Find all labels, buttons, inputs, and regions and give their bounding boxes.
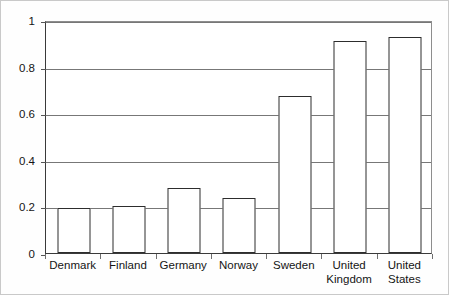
- bar: [57, 208, 90, 253]
- y-axis-tick-label: 0.8: [19, 62, 35, 74]
- x-axis-category-label: Norway: [211, 259, 266, 273]
- bar: [112, 206, 145, 253]
- y-axis-tick-label: 0.2: [19, 201, 35, 213]
- bar: [168, 188, 201, 253]
- x-axis-tick-mark: [432, 254, 433, 259]
- x-axis-category-label: Denmark: [45, 259, 100, 273]
- y-axis-tick-label: 0.4: [19, 155, 35, 167]
- bar: [389, 37, 422, 253]
- bar-slot: [101, 22, 156, 253]
- bar-series: [46, 22, 431, 253]
- x-axis-category-label: United States: [377, 259, 432, 286]
- plot-area: [45, 21, 432, 254]
- bar-slot: [46, 22, 101, 253]
- bar-slot: [212, 22, 267, 253]
- bar: [223, 198, 256, 253]
- x-axis-category-label: Germany: [156, 259, 211, 273]
- x-axis-category-label: Sweden: [266, 259, 321, 273]
- chart-figure: 00.20.40.60.81 DenmarkFinlandGermanyNorw…: [0, 0, 449, 295]
- bar: [278, 96, 311, 253]
- bar-slot: [157, 22, 212, 253]
- y-axis-tick-labels: 00.20.40.60.81: [1, 1, 41, 295]
- bar-slot: [322, 22, 377, 253]
- y-axis-tick-label: 0: [29, 248, 35, 260]
- bar-slot: [267, 22, 322, 253]
- x-axis-category-labels: DenmarkFinlandGermanyNorwaySwedenUnited …: [45, 259, 432, 295]
- bar-slot: [378, 22, 433, 253]
- bar: [334, 41, 367, 253]
- y-axis-tick-label: 1: [29, 15, 35, 27]
- y-axis-tick-label: 0.6: [19, 108, 35, 120]
- x-axis-category-label: Finland: [100, 259, 155, 273]
- x-axis-category-label: United Kingdom: [321, 259, 376, 286]
